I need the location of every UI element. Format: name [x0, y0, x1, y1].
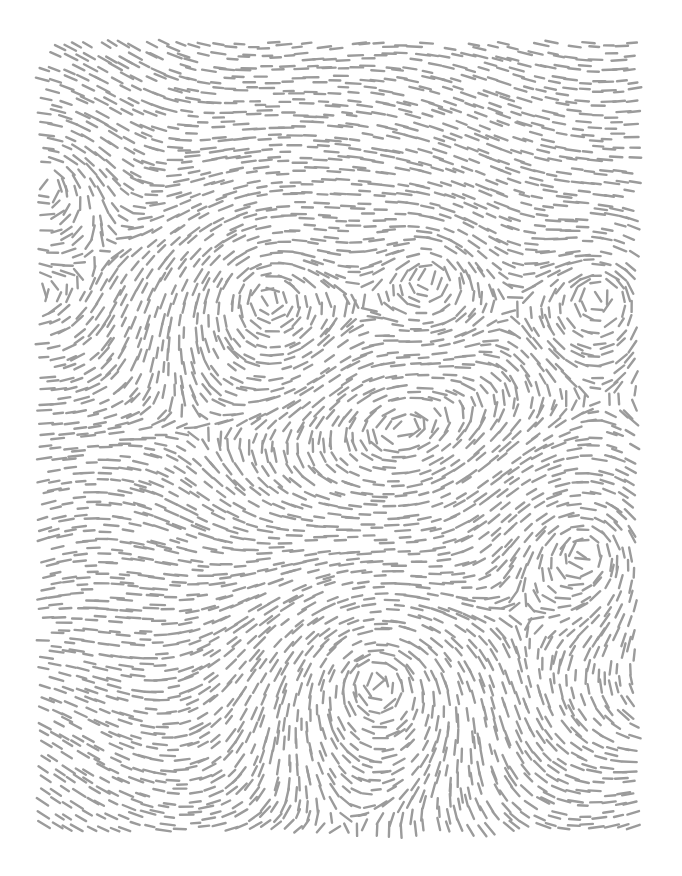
dash-stroke	[107, 609, 117, 610]
dash-stroke	[339, 87, 349, 88]
dash-stroke	[395, 584, 409, 585]
dash-stroke	[527, 626, 529, 637]
dash-stroke	[404, 239, 415, 240]
dash-stroke	[307, 801, 308, 812]
dash-stroke	[213, 43, 223, 45]
dash-stroke	[531, 307, 532, 318]
dash-stroke	[554, 674, 555, 684]
dash-stroke	[144, 608, 159, 609]
dash-stroke	[213, 137, 226, 138]
dash-stroke	[59, 433, 74, 435]
dash-stroke	[380, 543, 394, 544]
dash-stroke	[272, 182, 282, 183]
dash-stroke	[396, 495, 407, 496]
dash-stroke	[569, 515, 579, 517]
dash-stroke	[399, 184, 409, 186]
dash-stroke	[154, 733, 164, 734]
dash-stroke	[244, 539, 254, 540]
dash-stroke	[624, 69, 635, 70]
dash-stroke	[627, 101, 638, 102]
dash-stroke	[270, 354, 283, 355]
dash-stroke	[329, 159, 342, 160]
dash-stroke	[50, 447, 60, 448]
dash-stroke	[395, 53, 407, 54]
dash-stroke	[600, 170, 613, 171]
dash-stroke	[258, 194, 267, 196]
dash-stroke	[630, 157, 642, 158]
dash-stroke	[305, 117, 317, 118]
dash-stroke	[610, 661, 612, 674]
dash-stroke	[554, 239, 567, 240]
dash-stroke	[376, 593, 388, 594]
dash-stroke	[74, 561, 86, 562]
dash-stroke	[207, 102, 221, 103]
dash-stroke	[262, 149, 271, 150]
dash-stroke	[309, 696, 310, 709]
dash-stroke	[82, 641, 94, 643]
dash-stroke	[121, 582, 133, 583]
dash-stroke	[634, 649, 635, 660]
dash-stroke	[616, 46, 629, 47]
dash-stroke	[444, 359, 453, 360]
dash-stroke	[52, 424, 62, 425]
dash-stroke	[308, 66, 318, 67]
dash-stroke	[377, 825, 378, 836]
dash-stroke	[374, 43, 384, 44]
dash-stroke	[219, 140, 233, 142]
dash-stroke	[542, 568, 543, 581]
dash-stroke	[81, 473, 94, 474]
dash-stroke	[566, 221, 578, 222]
dash-stroke	[199, 566, 209, 567]
dash-stroke	[524, 273, 534, 274]
dash-stroke	[74, 427, 86, 429]
dash-stroke	[383, 193, 396, 194]
dash-stroke	[447, 726, 448, 736]
dash-stroke	[538, 649, 539, 659]
dash-stroke	[364, 238, 374, 239]
dash-stroke	[377, 355, 387, 357]
dash-stroke	[287, 535, 302, 536]
dash-stroke	[467, 708, 469, 720]
dash-stroke	[63, 581, 74, 582]
dash-stroke	[110, 631, 120, 632]
dash-stroke	[349, 505, 361, 506]
dash-stroke	[577, 227, 588, 228]
dash-stroke	[369, 780, 380, 781]
dash-stroke	[193, 570, 203, 571]
dash-stroke	[318, 194, 328, 195]
dash-stroke	[455, 367, 470, 368]
dash-stroke	[86, 620, 97, 621]
dash-stroke	[140, 588, 154, 589]
dash-stroke	[182, 405, 183, 417]
dash-stroke	[373, 161, 383, 163]
dash-stroke	[369, 650, 383, 651]
dash-stroke	[541, 251, 555, 253]
dash-stroke	[76, 481, 85, 482]
dash-stroke	[121, 542, 131, 544]
dash-stroke	[39, 608, 48, 609]
dash-stroke	[474, 737, 475, 748]
dash-stroke	[318, 551, 330, 552]
dash-stroke	[399, 449, 409, 450]
dash-stroke	[131, 675, 145, 677]
dash-stroke	[167, 175, 181, 176]
dash-stroke	[588, 684, 590, 693]
dash-stroke	[424, 418, 425, 429]
dash-stroke	[433, 353, 447, 355]
dash-stroke	[560, 304, 561, 314]
dash-stroke	[623, 772, 637, 773]
dash-stroke	[179, 315, 181, 325]
dash-stroke	[591, 388, 601, 389]
dash-stroke	[428, 363, 440, 364]
dash-stroke	[167, 349, 168, 360]
dash-stroke	[239, 439, 240, 449]
dash-stroke	[74, 554, 86, 555]
dash-stroke	[423, 399, 432, 401]
dash-stroke	[433, 692, 434, 706]
dash-stroke	[575, 670, 576, 680]
dash-stroke	[191, 823, 200, 824]
dash-stroke	[198, 595, 207, 596]
dash-stroke	[388, 352, 398, 353]
dash-stroke	[358, 170, 369, 171]
dash-stroke	[337, 242, 348, 243]
